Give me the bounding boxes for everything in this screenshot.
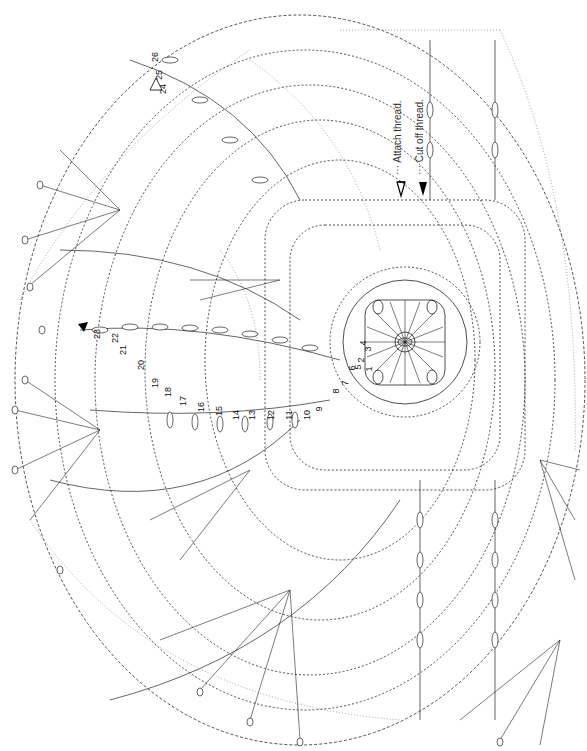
fan-left bbox=[15, 380, 100, 520]
row-number-label: 25 bbox=[154, 70, 164, 80]
row-number-label: 7 bbox=[340, 380, 350, 385]
row-number-label: 22 bbox=[110, 333, 120, 343]
legend-item-attach: ··· Attach thread. bbox=[392, 80, 414, 210]
row-number-label: 16 bbox=[196, 402, 206, 412]
row-number-label: 18 bbox=[163, 387, 173, 397]
filled-arrowhead-icon bbox=[416, 180, 430, 198]
crochet-chart bbox=[0, 0, 587, 751]
row-number-label: 6 bbox=[347, 365, 357, 370]
row-number-label: 20 bbox=[136, 360, 146, 370]
row-number-label: 14 bbox=[231, 410, 241, 420]
legend-label-cut: ··· Cut off thread. bbox=[414, 80, 425, 175]
row-number-label: 4 bbox=[358, 340, 368, 345]
chart-outline bbox=[15, 15, 585, 745]
row-number-label: 9 bbox=[314, 406, 324, 411]
row-number-label: 17 bbox=[178, 396, 188, 406]
legend-item-cut: ··· Cut off thread. bbox=[414, 80, 436, 210]
row-number-label: 23 bbox=[92, 329, 102, 339]
open-arrowhead-icon bbox=[394, 180, 408, 198]
row-number-label: 15 bbox=[214, 406, 224, 416]
fan-right bbox=[540, 460, 580, 580]
row-number-label: 21 bbox=[118, 345, 128, 355]
cut-thread-marker-icon bbox=[78, 322, 88, 332]
row-number-label: 2 bbox=[356, 357, 366, 362]
fan-bottom-left bbox=[160, 590, 300, 740]
center-flower-motif bbox=[330, 267, 480, 417]
row-number-label: 1 bbox=[364, 366, 374, 371]
fan-bottom-right bbox=[460, 640, 560, 745]
legend: ··· Attach thread. ··· Cut off thread. bbox=[392, 80, 452, 210]
row-number-label: 13 bbox=[247, 410, 257, 420]
row-number-label: 11 bbox=[284, 410, 294, 419]
row-number-label: 10 bbox=[302, 410, 312, 420]
row-number-label: 8 bbox=[331, 388, 341, 393]
thread-markers bbox=[78, 78, 162, 332]
row-number-label: 3 bbox=[363, 346, 373, 351]
row-number-label: 26 bbox=[150, 52, 160, 62]
row-number-label: 24 bbox=[158, 84, 168, 94]
row-number-label: 19 bbox=[150, 378, 160, 388]
chain-stitch-hatching bbox=[20, 30, 575, 720]
fan-top-left bbox=[25, 150, 120, 285]
row-number-label: 12 bbox=[266, 410, 276, 420]
edge-picots bbox=[12, 181, 503, 746]
legend-label-attach: ··· Attach thread. bbox=[392, 80, 403, 175]
